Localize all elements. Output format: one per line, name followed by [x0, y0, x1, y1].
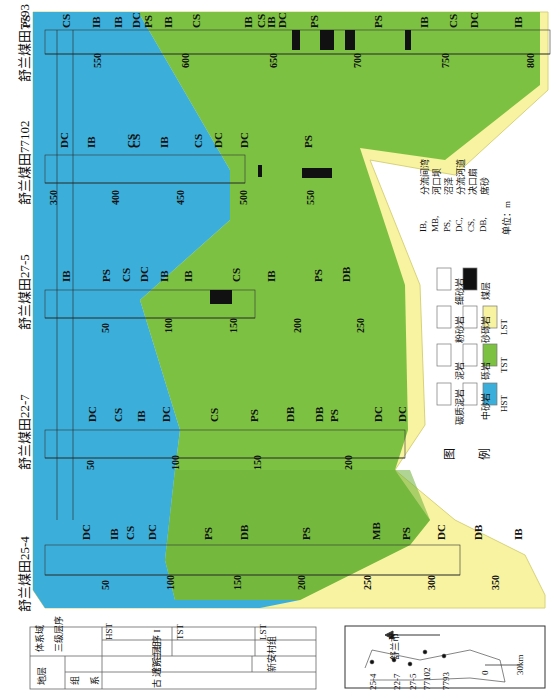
facies-label: PS — [312, 269, 324, 282]
facies-label: MB — [370, 522, 382, 540]
well-title-25-4: 舒兰煤田25-4 — [14, 536, 33, 612]
map-well-label: 77102 — [422, 668, 432, 691]
facies-label: PS — [300, 527, 312, 540]
depth-label: 450 — [175, 190, 186, 205]
facies-label: IB — [158, 136, 170, 148]
facies-label: PS — [308, 15, 320, 28]
table-label-series: 系 — [88, 676, 101, 685]
legend-lith-label: 煤层 — [479, 282, 492, 300]
legend-facies-code: PS, — [442, 220, 452, 232]
facies-label: CS — [112, 408, 124, 422]
facies-label: DB — [340, 267, 352, 282]
legend-lith-label: 中砂岩 — [479, 393, 492, 420]
map-well-label: 27-5 — [408, 674, 418, 691]
depth-label: 150 — [228, 318, 239, 333]
legend-tract-hst: HST — [499, 395, 509, 412]
facies-label: DB — [284, 407, 296, 422]
legend-lith-label: 泥岩 — [453, 362, 466, 380]
legend-title-1: 图 — [440, 448, 458, 460]
facies-label: DC — [130, 12, 142, 28]
facies-label: DC — [276, 12, 288, 28]
depth-label: 50 — [100, 323, 111, 333]
depth-label: 550 — [305, 190, 316, 205]
facies-label: DC — [86, 406, 98, 422]
facies-label: IB — [60, 270, 72, 282]
facies-label: PS — [202, 527, 214, 540]
facies-label: CS — [190, 14, 202, 28]
table-series: 古 近 系 — [150, 657, 163, 689]
depth-label: 200 — [343, 455, 354, 470]
legend-lith-label: 砾岩 — [479, 362, 492, 380]
facies-label: PS — [142, 15, 154, 28]
facies-label: IB — [135, 410, 147, 422]
facies-label: CS — [447, 14, 459, 28]
depth-label: 100 — [165, 575, 176, 590]
legend-lith-label: 细砂岩 — [453, 278, 466, 305]
facies-label: DC — [468, 12, 480, 28]
map-well-label: 25-4 — [368, 674, 378, 691]
legend-lith-label: 碳质泥岩 — [453, 389, 466, 425]
facies-label: IB — [182, 270, 194, 282]
facies-label: CS — [130, 134, 142, 148]
legend-facies-code: DB, — [478, 217, 488, 232]
depth-label: 400 — [110, 190, 121, 205]
depth-label: 350 — [48, 190, 59, 205]
table-label-sequence: 三级层序 — [52, 616, 65, 652]
facies-label: IB — [512, 528, 524, 540]
map-scale-max: 30km — [515, 654, 525, 675]
table-formation-2: 新安村组 — [265, 636, 278, 672]
table-tract-tst: TST — [175, 624, 185, 640]
facies-label: PS — [372, 15, 384, 28]
facies-label: DB — [313, 407, 325, 422]
facies-label: DB — [472, 525, 484, 540]
well-title-22-7: 舒兰煤田22-7 — [14, 394, 33, 470]
facies-label: CS — [192, 134, 204, 148]
facies-label: DC — [212, 132, 224, 148]
legend-title-2: 例 — [475, 448, 493, 460]
depth-label: 650 — [268, 53, 279, 68]
facies-label: IB — [162, 16, 174, 28]
legend-unit: 单位：m — [500, 201, 513, 235]
facies-label: CS — [208, 408, 220, 422]
facies-label: CS — [60, 14, 72, 28]
depth-label: 50 — [100, 580, 111, 590]
facies-label: DC — [146, 524, 158, 540]
facies-label: PS — [328, 409, 340, 422]
depth-label: 250 — [355, 318, 366, 333]
facies-label: IB — [85, 136, 97, 148]
depth-label: 150 — [252, 455, 263, 470]
depth-label: 250 — [362, 575, 373, 590]
table-label-tract: 体系域 — [33, 625, 46, 652]
depth-label: 800 — [525, 53, 536, 68]
facies-label: IB — [512, 16, 524, 28]
legend-facies-name: 席砂 — [478, 177, 491, 195]
facies-label: IB — [108, 528, 120, 540]
facies-label: IB — [242, 16, 254, 28]
facies-label: DC — [80, 524, 92, 540]
facies-label: IB — [158, 270, 170, 282]
depth-label: 350 — [490, 575, 501, 590]
facies-label: DC — [372, 406, 384, 422]
depth-label: 600 — [180, 53, 191, 68]
depth-label: 50 — [85, 460, 96, 470]
depth-label: 500 — [238, 190, 249, 205]
facies-label: PS — [20, 15, 32, 28]
facies-label: PS — [248, 409, 260, 422]
facies-label: DC — [160, 406, 172, 422]
facies-label: DC — [138, 266, 150, 282]
facies-label: DC — [396, 406, 408, 422]
facies-label: DC — [238, 132, 250, 148]
systems-tract-regions — [0, 0, 560, 695]
facies-label: DB — [238, 525, 250, 540]
facies-label: CS — [230, 268, 242, 282]
legend-lith-label: 砂砾岩 — [479, 316, 492, 343]
legend-facies-code: CS, — [466, 219, 476, 232]
facies-label: IB — [265, 270, 277, 282]
legend-facies-code: MB, — [430, 216, 440, 232]
well-title-77102: 舒兰煤田77102 — [14, 121, 33, 206]
legend-tract-lst: LST — [499, 319, 509, 335]
depth-label: 100 — [170, 455, 181, 470]
facies-label: IB — [112, 16, 124, 28]
facies-label: DC — [435, 524, 447, 540]
facies-label: IB — [418, 16, 430, 28]
